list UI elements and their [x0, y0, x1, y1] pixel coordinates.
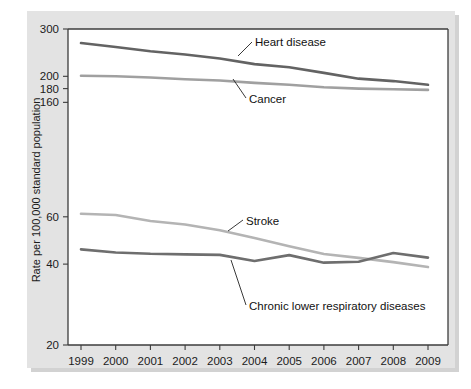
x-tick-label: 1999 [68, 355, 94, 367]
stroke-label: Stroke [246, 215, 279, 227]
y-tick-label: 300 [40, 23, 59, 35]
cancer-label: Cancer [249, 93, 286, 105]
y-axis-title: Rate per 100,000 standard population [30, 98, 42, 283]
x-tick-label: 2000 [103, 355, 129, 367]
y-tick-label: 200 [40, 70, 59, 82]
heart-disease-label: Heart disease [255, 36, 326, 48]
clrd-label: Chronic lower respiratory diseases [249, 300, 426, 312]
x-tick-label: 2002 [172, 355, 198, 367]
y-tick-label: 60 [46, 211, 59, 223]
x-tick-label: 2009 [415, 355, 441, 367]
figure-container: 300200180160604020 199920002001200220032… [0, 0, 471, 389]
x-tick-label: 2005 [276, 355, 302, 367]
line-chart: 300200180160604020 199920002001200220032… [0, 0, 471, 389]
y-tick-marks [63, 29, 68, 345]
x-tick-label: 2007 [346, 355, 372, 367]
y-tick-label: 40 [46, 258, 59, 270]
x-tick-marks [81, 345, 428, 350]
x-tick-label: 2008 [381, 355, 407, 367]
x-tick-labels: 1999200020012002200320042005200620072008… [68, 355, 441, 367]
y-tick-label: 180 [40, 83, 59, 95]
x-tick-label: 2006 [311, 355, 337, 367]
y-tick-label: 20 [46, 339, 59, 351]
x-tick-label: 2001 [138, 355, 164, 367]
x-tick-label: 2003 [207, 355, 233, 367]
y-tick-label: 160 [40, 96, 59, 108]
x-tick-label: 2004 [242, 355, 268, 367]
y-tick-labels: 300200180160604020 [40, 23, 59, 351]
